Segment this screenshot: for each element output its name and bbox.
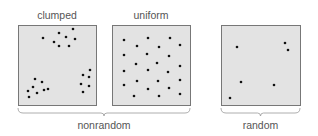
individual-dot	[123, 84, 126, 87]
individual-dot	[273, 84, 276, 87]
individual-dot	[146, 53, 149, 56]
individual-dot	[88, 85, 91, 88]
individual-dot	[229, 97, 232, 100]
individual-dot	[72, 28, 75, 31]
individual-dot	[169, 37, 172, 40]
individual-dot	[284, 42, 287, 45]
individual-dot	[58, 45, 61, 48]
individual-dot	[47, 88, 50, 91]
individual-dot	[179, 93, 182, 96]
individual-dot	[42, 37, 45, 40]
uniform-label: uniform	[112, 9, 190, 21]
individual-dot	[136, 80, 139, 83]
individual-dot	[158, 95, 161, 98]
individual-dot	[179, 65, 182, 68]
individual-dot	[82, 74, 85, 77]
nonrandom-bracket	[18, 108, 190, 116]
individual-dot	[158, 46, 161, 49]
individual-dot	[168, 87, 171, 90]
individual-dot	[156, 62, 159, 65]
individual-dot	[133, 95, 136, 98]
individual-dot	[157, 80, 160, 83]
individual-dot	[240, 81, 243, 84]
individual-dot	[80, 83, 83, 86]
individual-dot	[74, 38, 77, 41]
individual-dot	[123, 70, 126, 73]
individual-dot	[147, 69, 150, 72]
individual-dot	[32, 86, 35, 89]
individual-dot	[41, 81, 44, 84]
individual-dot	[28, 96, 31, 99]
individual-dot	[68, 45, 71, 48]
uniform-panel	[113, 26, 191, 106]
individual-dot	[43, 89, 46, 92]
individual-dot	[147, 37, 150, 40]
nonrandom-label: nonrandom	[18, 119, 190, 131]
individual-dot	[36, 92, 39, 95]
individual-dot	[82, 91, 85, 94]
individual-dot	[58, 32, 61, 35]
individual-dot	[53, 41, 56, 44]
individual-dot	[135, 63, 138, 66]
individual-dot	[27, 90, 30, 93]
random-box	[222, 26, 301, 106]
individual-dot	[287, 49, 290, 52]
individual-dot	[168, 55, 171, 58]
clumped-label: clumped	[18, 9, 96, 21]
individual-dot	[123, 54, 126, 57]
individual-dot	[147, 88, 150, 91]
individual-dot	[179, 79, 182, 82]
clumped-panel	[19, 26, 97, 106]
individual-dot	[136, 45, 139, 48]
individual-dot	[89, 69, 92, 72]
individual-dot	[88, 76, 91, 79]
clumped-box	[19, 26, 97, 106]
individual-dot	[123, 39, 126, 42]
random-group-bracket	[221, 108, 300, 116]
individual-dot	[236, 46, 239, 49]
individual-dot	[34, 78, 37, 81]
individual-dot	[179, 44, 182, 47]
individual-dot	[65, 36, 68, 39]
individual-dot	[167, 71, 170, 74]
random-panel	[222, 26, 301, 106]
random-label: random	[221, 119, 300, 131]
